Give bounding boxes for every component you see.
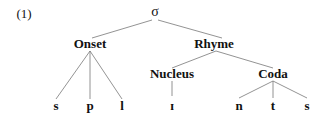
leaf-coda-t: t — [271, 98, 275, 114]
leaf-onset-p: p — [86, 98, 93, 114]
example-number: (1) — [16, 6, 31, 22]
node-syllable: σ — [151, 4, 159, 20]
leaf-coda-s: s — [304, 98, 309, 114]
node-nucleus: Nucleus — [150, 66, 194, 82]
node-rhyme: Rhyme — [194, 36, 234, 52]
tree-edges — [0, 0, 327, 117]
leaf-nucleus-vowel: ɪ — [170, 98, 174, 114]
leaf-onset-s: s — [53, 98, 58, 114]
leaf-onset-l: l — [120, 98, 124, 114]
node-coda: Coda — [258, 66, 288, 82]
node-onset: Onset — [74, 36, 107, 52]
leaf-coda-n: n — [235, 98, 242, 114]
